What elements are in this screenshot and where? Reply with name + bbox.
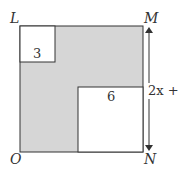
geometry-diagram: 2x + 1 3 6 L M O N: [0, 0, 183, 175]
large-square-label: 6: [107, 89, 115, 104]
small-square-label: 3: [33, 46, 41, 61]
vertex-label-n: N: [143, 151, 157, 167]
vertex-label-m: M: [143, 10, 159, 26]
side-length-label: 2x + 1: [148, 83, 183, 98]
vertex-label-l: L: [9, 10, 19, 26]
vertex-label-o: O: [10, 151, 22, 167]
